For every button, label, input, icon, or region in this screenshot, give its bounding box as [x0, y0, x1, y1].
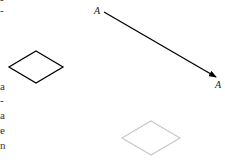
diagram-canvas: A A	[0, 0, 225, 168]
arrow-start-label: A	[93, 5, 101, 16]
grey-diamond-shape	[122, 121, 180, 155]
arrow-line	[104, 12, 216, 77]
arrow-end-label: A	[214, 79, 222, 90]
black-diamond-shape	[9, 51, 63, 83]
